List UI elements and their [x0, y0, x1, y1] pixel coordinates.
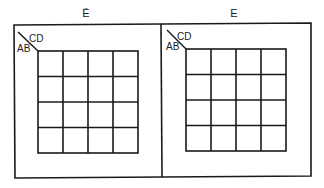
map-title-e: E: [230, 7, 237, 19]
karnaugh-map-diagram: Ē CD AB E CD AB: [0, 0, 324, 188]
map-divider: [161, 24, 162, 177]
column-variables-label: CD: [29, 33, 43, 44]
row-variables-label: AB: [166, 41, 180, 52]
map-title-e-bar: Ē: [82, 7, 89, 19]
map-e: E CD AB: [166, 7, 286, 151]
kmap-grid: [186, 49, 286, 151]
row-variables-label: AB: [17, 43, 31, 54]
kmap-grid: [38, 51, 138, 153]
map-e-bar: Ē CD AB: [17, 7, 138, 153]
